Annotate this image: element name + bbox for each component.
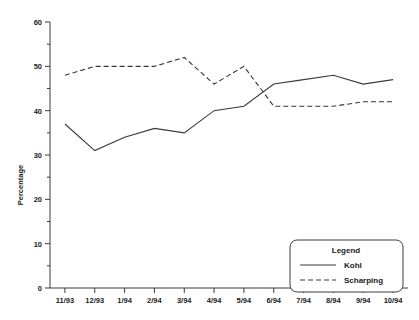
y-tick-label: 0 — [38, 284, 42, 293]
chart-container: Percentage 0102030405060 11/9312/931/942… — [0, 0, 419, 320]
x-tick-label: 2/94 — [147, 296, 162, 305]
series-group — [65, 57, 393, 150]
x-tick-label: 3/94 — [177, 296, 192, 305]
x-tick-label: 1/94 — [117, 296, 132, 305]
x-tick-label: 8/94 — [326, 296, 341, 305]
line-chart: Percentage 0102030405060 11/9312/931/942… — [0, 0, 419, 320]
y-axis-ticks: 0102030405060 — [34, 18, 50, 293]
legend-label-kohl[interactable]: Kohl — [344, 261, 362, 270]
legend-title: Legend — [332, 246, 361, 255]
y-tick-label: 40 — [34, 107, 42, 116]
legend-label-scharping[interactable]: Scharping — [344, 276, 383, 285]
x-tick-label: 7/94 — [296, 296, 311, 305]
y-tick-label: 50 — [34, 62, 42, 71]
x-tick-label: 9/94 — [356, 296, 371, 305]
x-tick-label: 4/94 — [207, 296, 222, 305]
y-tick-label: 60 — [34, 18, 42, 27]
chart-legend[interactable]: Legend KohlScharping — [290, 240, 403, 292]
x-tick-label: 10/94 — [384, 296, 404, 305]
x-tick-label: 6/94 — [266, 296, 281, 305]
x-tick-label: 11/93 — [56, 296, 74, 305]
x-tick-label: 5/94 — [237, 296, 252, 305]
series-line-scharping — [65, 57, 393, 106]
y-tick-label: 20 — [34, 195, 42, 204]
x-tick-label: 12/93 — [85, 296, 104, 305]
y-axis-title: Percentage — [16, 165, 25, 205]
series-line-kohl — [65, 75, 393, 150]
y-tick-label: 10 — [34, 240, 42, 249]
y-tick-label: 30 — [34, 151, 42, 160]
